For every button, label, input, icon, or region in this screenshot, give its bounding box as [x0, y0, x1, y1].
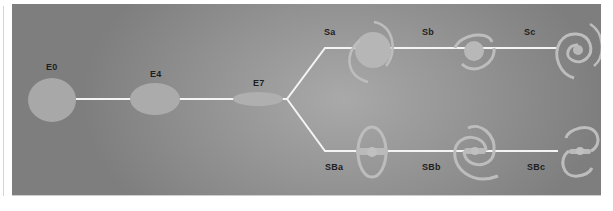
label-sa: Sa [324, 27, 336, 37]
hubble-tuning-fork-diagram: E0 E4 E7 Sa Sb Sc [12, 4, 601, 196]
barred-spiral-sba-icon [356, 127, 388, 177]
label-sbb: SBb [422, 162, 441, 172]
label-e7: E7 [253, 78, 264, 88]
elliptical-e4-icon [130, 83, 180, 115]
spiral-sc-icon [557, 24, 601, 78]
spiral-sa-icon [350, 22, 393, 82]
barred-spiral-sbb-icon [455, 126, 498, 178]
spiral-branch-line [257, 48, 557, 99]
galaxy-e0: E0 [28, 62, 76, 122]
elliptical-e0-icon [28, 78, 76, 122]
galaxy-e7: E7 [233, 78, 283, 106]
galaxy-sa: Sa [324, 22, 393, 82]
spiral-sb-icon [455, 35, 494, 69]
label-sbc: SBc [527, 162, 545, 172]
label-sba: SBa [325, 162, 344, 172]
diagram-canvas: E0 E4 E7 Sa Sb Sc [12, 4, 601, 195]
left-margin-rule [3, 6, 4, 196]
elliptical-e7-icon [233, 92, 283, 106]
label-e4: E4 [150, 69, 161, 79]
galaxy-sc: Sc [524, 24, 601, 78]
label-e0: E0 [46, 62, 57, 72]
label-sb: Sb [422, 27, 434, 37]
barred-spiral-branch-line [287, 99, 558, 151]
label-sc: Sc [524, 27, 535, 37]
galaxy-e4: E4 [130, 69, 180, 115]
barred-spiral-sbc-icon [563, 127, 598, 176]
galaxy-sbb: SBb [422, 126, 498, 178]
